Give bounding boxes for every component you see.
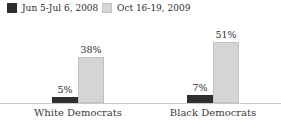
bar-white-democrats-series-1 [78,57,104,103]
bar-black-democrats-series-1 [213,42,239,103]
bar-black-democrats-series-0 [187,95,213,103]
bar-value-label-black-democrats-series-0: 7% [192,83,207,93]
legend-swatch-2009 [102,3,112,13]
legend-swatch-2008 [7,3,17,13]
bar-col-black-democrats-series-1: 51% [213,30,239,103]
x-axis-line [0,103,281,104]
bar-group-white-democrats: 5%38% [52,45,104,103]
category-label-black-democrats: Black Democrats [170,107,256,118]
legend-label-2009: Oct 16-19, 2009 [117,4,190,13]
bar-value-label-black-democrats-series-1: 51% [215,30,236,40]
bar-value-label-white-democrats-series-1: 38% [80,45,101,55]
legend-item-2008: Jun 5-Jul 6, 2008 [7,3,98,13]
bar-col-white-democrats-series-1: 38% [78,45,104,103]
bar-white-democrats-series-0 [52,97,78,103]
bar-col-white-democrats-series-0: 5% [52,85,78,103]
bar-col-black-democrats-series-0: 7% [187,83,213,103]
bar-chart: Jun 5-Jul 6, 2008 Oct 16-19, 2009 5%38%7… [0,0,281,125]
bar-group-black-democrats: 7%51% [187,30,239,103]
bar-value-label-white-democrats-series-0: 5% [57,85,72,95]
category-label-white-democrats: White Democrats [34,107,122,118]
legend-item-2009: Oct 16-19, 2009 [102,3,190,13]
legend-label-2008: Jun 5-Jul 6, 2008 [22,4,98,13]
